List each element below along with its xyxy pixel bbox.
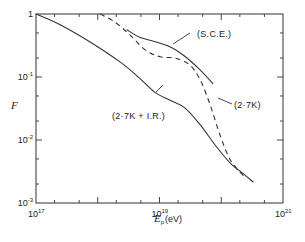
x-axis-label-unit: (eV) (165, 214, 182, 224)
y-tick-label: 10-2 (18, 134, 34, 145)
curves (36, 14, 253, 182)
y-tick-label: 1 (28, 9, 33, 19)
x-tick-label: 1017 (28, 208, 45, 219)
x-axis-label: Ep(eV) (153, 212, 182, 225)
sce-leader (173, 33, 190, 44)
y-tick-label: 10-3 (18, 197, 34, 208)
y-tick-label: 10-1 (18, 71, 34, 82)
27k-leader (218, 98, 232, 104)
y-axis-label: F (10, 99, 18, 111)
annotation-27k: (2·7K) (234, 100, 261, 110)
x-tick-label: 1021 (275, 208, 292, 219)
27k-ir-leader (155, 85, 163, 93)
annotation-sce: (S.C.E.) (197, 29, 231, 39)
annotation-27k-ir: (2·7K + I.R.) (112, 111, 165, 121)
chart: 101710191021110-110-210-3 (S.C.E.) (2·7K… (0, 0, 305, 242)
